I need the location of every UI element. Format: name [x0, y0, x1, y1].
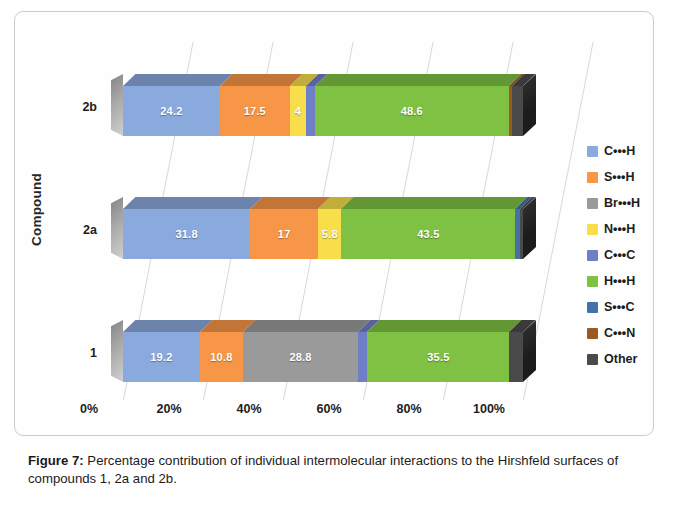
legend-item[interactable]: C•••N [587, 320, 654, 346]
x-axis-tick: 80% [379, 402, 439, 416]
bar-segment-top [123, 197, 263, 209]
bar-origin-cap [111, 74, 123, 136]
bar-row: 24.217.5448.6 [123, 74, 523, 136]
bar-row: 19.210.828.835.5 [123, 320, 523, 382]
y-axis-category-label: 2b [55, 100, 97, 114]
legend-item[interactable]: C•••C [587, 242, 654, 268]
figure-caption-text: Percentage contribution of individual in… [28, 453, 618, 486]
x-axis-tick: 100% [459, 402, 519, 416]
legend-item-label: C•••N [604, 326, 635, 340]
bar-segment[interactable]: 31.8 [123, 209, 250, 259]
bar-segment[interactable]: 17.5 [220, 86, 290, 136]
bar-segment-value-label: 17.5 [220, 105, 290, 117]
bar-segment-top [341, 197, 527, 209]
bar-side-face [523, 197, 536, 259]
bar-segment[interactable] [358, 332, 367, 382]
bar-segment-value-label: 4 [290, 105, 306, 117]
bar-segment-value-label: 43.5 [341, 228, 515, 240]
bar-segment[interactable]: 28.8 [243, 332, 358, 382]
legend-item-label: S•••C [604, 300, 635, 314]
bar-segment-value-label: 35.5 [367, 351, 509, 363]
bar-segment[interactable] [512, 86, 523, 136]
bar-segment[interactable]: 35.5 [367, 332, 509, 382]
legend-item-label: H•••H [604, 274, 635, 288]
bar-origin-cap [111, 197, 123, 259]
bar-segment-value-label: 31.8 [123, 228, 250, 240]
bar-top-face [123, 320, 535, 332]
bar-segment[interactable]: 24.2 [123, 86, 220, 136]
legend-swatch-icon [587, 250, 598, 261]
bar-segment[interactable] [306, 86, 315, 136]
chart-legend: C•••HS•••HBr•••HN•••HC•••CH•••HS•••CC•••… [587, 138, 654, 372]
bar-segment-value-label: 48.6 [315, 105, 509, 117]
legend-item-label: Other [604, 352, 637, 366]
legend-item[interactable]: Other [587, 346, 654, 372]
bar-top-face [123, 74, 535, 86]
figure-caption-label: Figure 7: [28, 453, 84, 468]
bar-top-face [123, 197, 535, 209]
bar-side-face [523, 74, 536, 136]
bar-segment[interactable]: 48.6 [315, 86, 509, 136]
bar-segment-top [123, 74, 232, 86]
bar-front-face: 24.217.5448.6 [123, 86, 523, 136]
bar-segment-value-label: 5.8 [318, 228, 341, 240]
legend-swatch-icon [587, 276, 598, 287]
bar-segment[interactable]: 4 [290, 86, 306, 136]
legend-swatch-icon [587, 328, 598, 339]
x-axis-tick: 20% [139, 402, 199, 416]
bar-segment[interactable]: 17 [250, 209, 318, 259]
legend-swatch-icon [587, 198, 598, 209]
bar-segment[interactable]: 43.5 [341, 209, 515, 259]
chart-plot-area: Compound 2b2a1 24.217.5448.631.8175.843.… [15, 12, 654, 436]
x-axis-tick: 0% [59, 402, 119, 416]
bar-segment-top [315, 74, 522, 86]
legend-item-label: C•••H [604, 144, 635, 158]
figure-frame: Compound 2b2a1 24.217.5448.631.8175.843.… [14, 11, 654, 436]
legend-item[interactable]: C•••H [587, 138, 654, 164]
legend-swatch-icon [587, 354, 598, 365]
bar-segment[interactable]: 19.2 [123, 332, 200, 382]
bar-front-face: 31.8175.843.5 [123, 209, 523, 259]
bar-segment-value-label: 17 [250, 228, 318, 240]
x-axis-tick: 60% [299, 402, 359, 416]
legend-item[interactable]: H•••H [587, 268, 654, 294]
y-axis-title: Compound [29, 145, 44, 275]
bar-side-face [523, 320, 536, 382]
legend-item-label: C•••C [604, 248, 635, 262]
legend-item[interactable]: S•••C [587, 294, 654, 320]
legend-swatch-icon [587, 146, 598, 157]
legend-item[interactable]: S•••H [587, 164, 654, 190]
legend-item[interactable]: N•••H [587, 216, 654, 242]
bar-segment-value-label: 28.8 [243, 351, 358, 363]
y-axis-category-label: 2a [55, 223, 97, 237]
bar-segment-top [243, 320, 371, 332]
legend-swatch-icon [587, 172, 598, 183]
bar-front-face: 19.210.828.835.5 [123, 332, 523, 382]
bar-origin-cap [111, 320, 123, 382]
bar-segment-value-label: 10.8 [200, 351, 243, 363]
legend-swatch-icon [587, 302, 598, 313]
legend-item-label: S•••H [604, 170, 635, 184]
bar-segment-top [123, 320, 212, 332]
legend-swatch-icon [587, 224, 598, 235]
legend-item-label: N•••H [604, 222, 635, 236]
bar-segment-top [367, 320, 521, 332]
y-axis-category-label: 1 [55, 346, 97, 360]
legend-item-label: Br•••H [604, 196, 640, 210]
bar-row: 31.8175.843.5 [123, 197, 523, 259]
x-axis-tick: 40% [219, 402, 279, 416]
bar-segment-value-label: 19.2 [123, 351, 200, 363]
bar-segment[interactable]: 5.8 [318, 209, 341, 259]
figure-caption: Figure 7: Percentage contribution of ind… [28, 452, 658, 488]
bar-segment[interactable] [509, 332, 523, 382]
bar-segment-value-label: 24.2 [123, 105, 220, 117]
legend-item[interactable]: Br•••H [587, 190, 654, 216]
bar-segment[interactable]: 10.8 [200, 332, 243, 382]
